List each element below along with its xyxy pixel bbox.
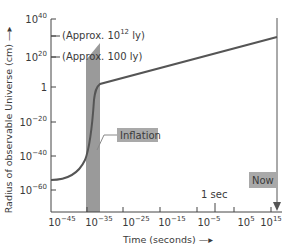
y-ticks [51,19,56,190]
svg-text:1: 1 [41,82,47,93]
svg-text:10−25: 10−25 [122,215,150,228]
svg-text:10−20: 10−20 [19,115,47,128]
y-axis-title: Radius of observable Universe (cm) —▸ [3,27,14,214]
svg-text:10−60: 10−60 [19,183,47,196]
x-axis-title: Time (seconds) —▸ [122,234,213,245]
x-tick-labels: 10−45 10−35 10−25 10−15 10−5 105 1015 [48,215,282,228]
svg-text:10−5: 10−5 [197,215,220,228]
approx-100-ly-label: (Approx. 100 ly) [62,51,142,62]
svg-text:1040: 1040 [25,12,47,25]
svg-text:10−45: 10−45 [48,215,76,228]
now-arrow-icon [273,202,281,211]
chart-canvas: 1040 1020 1 10−20 10−40 10−60 10−45 10−3… [0,0,297,249]
svg-text:10−40: 10−40 [19,149,47,162]
y-tick-labels: 1040 1020 1 10−20 10−40 10−60 [19,12,47,196]
svg-text:10−15: 10−15 [158,215,186,228]
now-label: Now [252,175,274,186]
inflation-band [86,43,100,212]
svg-text:1020: 1020 [25,50,47,63]
approx-12-ly-label: (Approx. 1012 ly) [62,28,145,41]
svg-text:10−35: 10−35 [85,215,113,228]
one-sec-label: 1 sec [201,189,227,200]
x-ticks [87,203,271,212]
svg-text:105: 105 [237,215,254,228]
inflation-label: Inflation [120,130,161,141]
x-tick-label: 1015 [260,215,282,228]
